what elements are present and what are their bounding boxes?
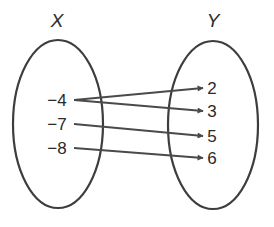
domain-element-neg4: −4 [47, 91, 66, 110]
arrow-neg7-to-5 [74, 124, 203, 136]
domain-element-neg7: −7 [47, 115, 66, 134]
set-x-label: X [50, 10, 65, 31]
set-y-label: Y [207, 10, 221, 31]
range-element-6: 6 [207, 149, 216, 168]
mapping-diagram: X Y −4 −7 −8 2 3 5 6 [0, 0, 274, 227]
arrow-neg8-to-6 [74, 148, 203, 158]
set-y-oval [168, 41, 258, 209]
range-element-3: 3 [207, 102, 216, 121]
range-element-5: 5 [207, 127, 216, 146]
arrow-neg4-to-2 [74, 88, 203, 100]
domain-element-neg8: −8 [47, 139, 66, 158]
arrow-neg4-to-3 [74, 100, 203, 111]
range-element-2: 2 [207, 79, 216, 98]
